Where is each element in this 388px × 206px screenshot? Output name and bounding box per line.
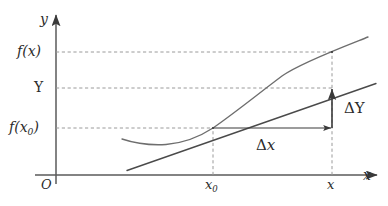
x-axis-label: x (363, 168, 371, 182)
curve-at-x-marker (331, 51, 333, 53)
x-tick-label-x: x (327, 178, 334, 191)
delta-Y-variable: Y (355, 99, 365, 117)
y-tick-label-f-of-x0: f(x0) (9, 120, 39, 136)
y-tick-label-f-of-x: f(x) (17, 44, 41, 58)
marked-points-group (212, 51, 333, 129)
tangency-point-marker (212, 127, 214, 129)
axes-group (35, 15, 377, 184)
delta-x-variable: x (267, 136, 275, 154)
delta-glyph-x: Δ (256, 136, 267, 154)
y-tick-label-Y: Y (34, 80, 43, 94)
delta-Y-annotation-label: ΔY (344, 101, 365, 116)
x-tick-label-x0: x0 (205, 178, 218, 193)
f-of-x0-close-paren: ) (33, 119, 38, 135)
y-axis-label: y (40, 12, 48, 26)
delta-x-annotation-label: Δx (256, 138, 275, 153)
f-of-x0-base: f(x (9, 119, 28, 135)
tangent-line (127, 84, 376, 171)
diagram-canvas (0, 0, 388, 206)
origin-label: O (41, 178, 52, 191)
delta-glyph-Y: Δ (344, 99, 355, 117)
x0-subscript: 0 (212, 184, 217, 194)
differential-diagram-figure: y x O f(x) Y f(x0) x0 x Δx ΔY (0, 0, 388, 206)
